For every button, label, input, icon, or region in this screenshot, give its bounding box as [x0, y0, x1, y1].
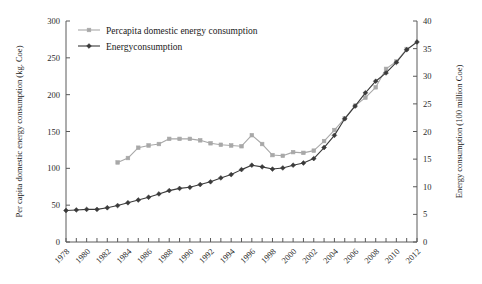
series-point — [209, 141, 213, 145]
x-axis-tick-label: 1980 — [73, 246, 92, 265]
series-point — [271, 153, 275, 157]
y-axis-right-tick-label: 30 — [423, 71, 432, 81]
x-axis-tick-label: 2008 — [362, 246, 381, 265]
x-axis-tick-label: 1988 — [156, 246, 175, 265]
series-point — [239, 167, 244, 172]
x-axis-tick-label: 1984 — [114, 246, 134, 266]
series-point — [270, 167, 275, 172]
series-point — [74, 208, 79, 213]
series-point — [333, 128, 337, 132]
y-axis-left-tick-label: 300 — [47, 16, 60, 26]
series-point — [280, 166, 285, 171]
x-axis-tick-label: 2004 — [321, 246, 341, 266]
x-axis-tick-label: 1978 — [52, 246, 71, 265]
series-point — [291, 163, 296, 168]
x-axis-tick-label: 1990 — [176, 246, 195, 265]
y-axis-right-tick-label: 20 — [423, 127, 432, 137]
series-point — [116, 161, 120, 165]
x-axis-tick-label: 1998 — [259, 246, 278, 265]
series-point — [240, 144, 244, 148]
y-axis-left-tick-label: 0 — [56, 237, 60, 247]
y-axis-left-tick-label: 100 — [47, 163, 60, 173]
dual-axis-line-chart: 0501001502002503000510152025303540197819… — [0, 0, 482, 284]
x-axis-tick-label: 2002 — [300, 246, 319, 265]
legend: Percapita domestic energy consumptionEne… — [78, 26, 258, 52]
series-point — [178, 137, 182, 141]
series-point — [250, 133, 254, 137]
legend-label-2: Energyconsumption — [106, 42, 183, 52]
series-point — [260, 142, 264, 146]
series-point — [374, 86, 378, 90]
legend-marker-1 — [87, 28, 91, 32]
y-axis-right-tick-label: 0 — [423, 237, 427, 247]
y-axis-right-title: Energy consumption (100 million Coe) — [454, 65, 464, 199]
series-point — [187, 185, 192, 190]
legend-marker-2 — [87, 44, 92, 49]
y-axis-right-tick-label: 15 — [423, 154, 432, 164]
series-point — [208, 179, 213, 184]
series-point — [146, 195, 151, 200]
y-axis-right-tick-label: 5 — [423, 209, 427, 219]
y-axis-right-tick-label: 25 — [423, 99, 432, 109]
series-point — [302, 151, 306, 155]
series-point — [229, 144, 233, 148]
series-point — [188, 137, 192, 141]
series-point — [291, 150, 295, 154]
y-axis-left-title: Per capita domestic energy consumption (… — [14, 45, 24, 217]
series-point — [219, 143, 223, 147]
x-axis-tick-label: 1996 — [238, 246, 257, 265]
series-point — [84, 207, 89, 212]
series-point — [177, 186, 182, 191]
series-point — [95, 207, 100, 212]
series-point — [312, 149, 316, 153]
x-axis-tick-label: 1986 — [135, 246, 154, 265]
x-axis-tick-label: 2012 — [403, 246, 422, 265]
series-point — [105, 205, 110, 210]
series-point — [115, 203, 120, 208]
chart-container: 0501001502002503000510152025303540197819… — [0, 0, 482, 284]
series-point — [281, 154, 285, 158]
series-point — [126, 156, 130, 160]
y-axis-left-tick-label: 200 — [47, 90, 60, 100]
series-point — [167, 188, 172, 193]
series-point — [147, 144, 151, 148]
series-point — [198, 182, 203, 187]
series-line — [66, 42, 417, 211]
series-point — [198, 139, 202, 143]
series-point — [167, 137, 171, 141]
series-point — [157, 192, 162, 197]
series-point — [364, 96, 368, 100]
series-point — [136, 146, 140, 150]
series-point — [136, 198, 141, 203]
y-axis-right-tick-label: 35 — [423, 44, 432, 54]
x-axis-tick-label: 1982 — [94, 246, 113, 265]
x-axis-tick-label: 1994 — [217, 246, 237, 266]
series-point — [218, 176, 223, 181]
series-point — [126, 200, 131, 205]
y-axis-left-tick-label: 250 — [47, 53, 60, 63]
series-2 — [64, 40, 420, 213]
y-axis-left-tick-label: 150 — [47, 127, 60, 137]
series-point — [260, 164, 265, 169]
x-axis-tick-label: 2010 — [383, 246, 402, 265]
x-axis-tick-label: 1992 — [197, 246, 216, 265]
y-axis-left-tick-label: 50 — [52, 200, 61, 210]
legend-label-1: Percapita domestic energy consumption — [106, 26, 258, 36]
series-point — [301, 161, 306, 166]
y-axis-right-tick-label: 40 — [423, 16, 432, 26]
series-point — [322, 139, 326, 143]
y-axis-right-tick-label: 10 — [423, 182, 432, 192]
series-point — [229, 172, 234, 177]
series-point — [384, 67, 388, 71]
series-1 — [116, 47, 409, 164]
x-axis-tick-label: 2006 — [341, 246, 360, 265]
series-point — [249, 163, 254, 168]
series-point — [157, 142, 161, 146]
series-point — [64, 208, 69, 213]
x-axis-tick-label: 2000 — [279, 246, 298, 265]
